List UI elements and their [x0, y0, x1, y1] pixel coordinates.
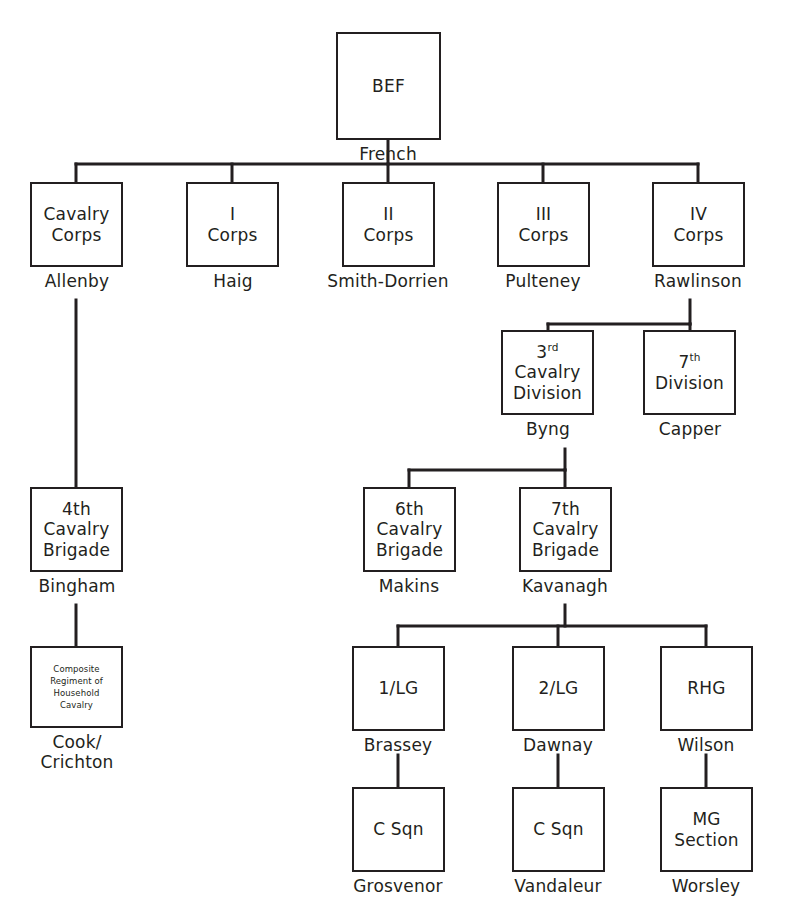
node-3rd-cavalry-division-line2: Cavalry — [515, 362, 581, 382]
node-composite-regiment-line1: Composite — [53, 664, 99, 674]
node-rhg-label: RHG — [687, 678, 725, 698]
node-mg-section-line2: Section — [674, 830, 739, 850]
node-7th-division-line2: Division — [655, 373, 724, 393]
node-bef-label: BEF — [372, 76, 405, 96]
caption-rhg: Wilson — [631, 735, 781, 755]
node-iii-corps-line1: III — [536, 204, 552, 224]
node-1lg-label: 1/LG — [379, 678, 419, 698]
caption-i-corps: Haig — [158, 271, 308, 291]
caption-ii-corps: Smith-Dorrien — [313, 271, 463, 291]
node-iii-corps-line2: Corps — [519, 225, 569, 245]
node-4th-cavalry-brigade-line2: Cavalry — [44, 519, 110, 539]
caption-1lg: Brassey — [323, 735, 473, 755]
node-ii-corps[interactable]: II Corps — [342, 182, 435, 267]
caption-iii-corps: Pulteney — [468, 271, 618, 291]
node-mg-section-line1: MG — [692, 809, 720, 829]
node-6th-cavalry-brigade-line3: Brigade — [376, 540, 443, 560]
caption-bef: French — [313, 144, 463, 164]
node-composite-regiment-line3: Household — [54, 688, 100, 698]
node-2lg[interactable]: 2/LG — [512, 646, 605, 731]
caption-7th-cavalry-brigade: Kavanagh — [490, 576, 640, 596]
node-4th-cavalry-brigade[interactable]: 4th Cavalry Brigade — [30, 487, 123, 572]
node-7th-division[interactable]: 7th Division — [643, 330, 736, 415]
node-c-sqn-2lg[interactable]: C Sqn — [512, 787, 605, 872]
node-6th-cavalry-brigade-line2: Cavalry — [377, 519, 443, 539]
caption-4th-cavalry-brigade: Bingham — [2, 576, 152, 596]
node-3rd-cavalry-division-line1: 3rd — [536, 342, 558, 362]
figure-caption — [0, 908, 791, 920]
node-i-corps-line1: I — [230, 204, 235, 224]
caption-composite-regiment: Cook/ Crichton — [2, 732, 152, 773]
node-iv-corps[interactable]: IV Corps — [652, 182, 745, 267]
caption-iv-corps: Rawlinson — [623, 271, 773, 291]
node-cavalry-corps[interactable]: Cavalry Corps — [30, 182, 123, 267]
node-4th-cavalry-brigade-line1: 4th — [62, 499, 91, 519]
node-c-sqn-1lg[interactable]: C Sqn — [352, 787, 445, 872]
node-cavalry-corps-line1: Cavalry — [44, 204, 110, 224]
node-i-corps-line2: Corps — [208, 225, 258, 245]
node-ii-corps-line1: II — [383, 204, 393, 224]
node-2lg-label: 2/LG — [539, 678, 579, 698]
node-4th-cavalry-brigade-line3: Brigade — [43, 540, 110, 560]
node-iii-corps[interactable]: III Corps — [497, 182, 590, 267]
node-composite-regiment[interactable]: Composite Regiment of Household Cavalry — [30, 646, 123, 728]
node-3rd-cavalry-division[interactable]: 3rd Cavalry Division — [501, 330, 594, 415]
node-c-sqn-1lg-label: C Sqn — [373, 819, 424, 839]
node-3rd-cavalry-division-line3: Division — [513, 383, 582, 403]
caption-2lg: Dawnay — [483, 735, 633, 755]
caption-6th-cavalry-brigade: Makins — [334, 576, 484, 596]
caption-mg-section: Worsley — [631, 876, 781, 896]
org-chart: BEF French Cavalry Corps Allenby I Corps… — [0, 0, 791, 920]
caption-7th-division: Capper — [615, 419, 765, 439]
caption-cavalry-corps: Allenby — [2, 271, 152, 291]
node-rhg[interactable]: RHG — [660, 646, 753, 731]
node-c-sqn-2lg-label: C Sqn — [533, 819, 584, 839]
node-7th-cavalry-brigade-line3: Brigade — [532, 540, 599, 560]
node-iv-corps-line1: IV — [690, 204, 707, 224]
node-cavalry-corps-line2: Corps — [52, 225, 102, 245]
caption-3rd-cavalry-division: Byng — [473, 419, 623, 439]
node-ii-corps-line2: Corps — [364, 225, 414, 245]
node-mg-section[interactable]: MG Section — [660, 787, 753, 872]
node-composite-regiment-line2: Regiment of — [50, 676, 103, 686]
node-composite-regiment-line4: Cavalry — [60, 700, 93, 710]
node-iv-corps-line2: Corps — [674, 225, 724, 245]
caption-c-sqn-2lg: Vandaleur — [483, 876, 633, 896]
node-7th-division-line1: 7th — [678, 352, 700, 372]
node-6th-cavalry-brigade-line1: 6th — [395, 499, 424, 519]
node-bef[interactable]: BEF — [336, 32, 441, 140]
node-1lg[interactable]: 1/LG — [352, 646, 445, 731]
node-6th-cavalry-brigade[interactable]: 6th Cavalry Brigade — [363, 487, 456, 572]
node-7th-cavalry-brigade[interactable]: 7th Cavalry Brigade — [519, 487, 612, 572]
node-7th-cavalry-brigade-line2: Cavalry — [533, 519, 599, 539]
caption-c-sqn-1lg: Grosvenor — [323, 876, 473, 896]
node-7th-cavalry-brigade-line1: 7th — [551, 499, 580, 519]
node-i-corps[interactable]: I Corps — [186, 182, 279, 267]
